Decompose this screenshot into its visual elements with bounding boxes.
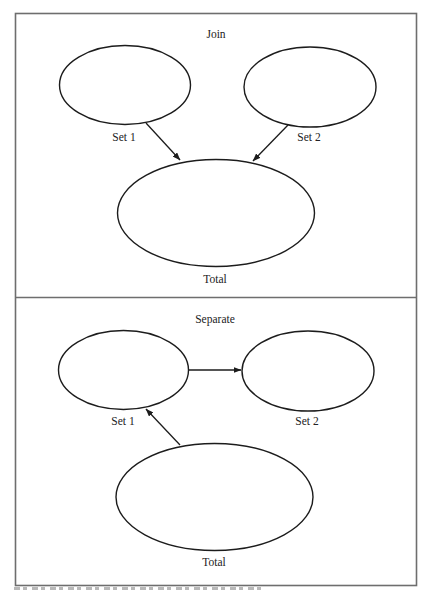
join-set1-label: Set 1 — [112, 131, 136, 143]
join-set2-label: Set 2 — [297, 131, 321, 143]
join-total-node — [118, 160, 315, 267]
join-set2-node — [244, 47, 376, 127]
separate-set1-node — [59, 331, 189, 410]
diagram: Join Set 1 Set 2 Total Separate Set 1 Se… — [0, 0, 425, 590]
join-edge-set1-to-total — [146, 123, 180, 160]
join-edge-set2-to-total — [253, 125, 288, 161]
separate-set1-label: Set 1 — [111, 415, 135, 427]
panel-title-join: Join — [206, 28, 225, 40]
panel-separate: Separate Set 1 Set 2 Total — [59, 313, 375, 568]
separate-edge-total-to-set1 — [146, 409, 180, 445]
separate-total-node — [116, 444, 313, 551]
join-total-label: Total — [203, 273, 226, 285]
separate-set2-label: Set 2 — [295, 415, 319, 427]
panel-join: Join Set 1 Set 2 Total — [60, 28, 377, 285]
panel-title-separate: Separate — [195, 313, 235, 326]
separate-set2-node — [242, 331, 374, 411]
separate-total-label: Total — [202, 556, 225, 568]
join-set1-node — [60, 46, 191, 125]
